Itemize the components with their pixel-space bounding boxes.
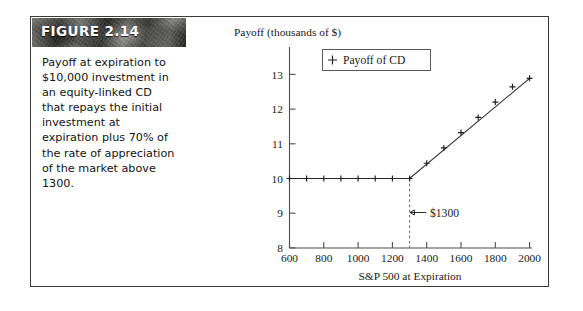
y-tick-label-13: 13 (272, 69, 284, 81)
figure-frame: FIGURE 2.14 Payoff at expiration to $10,… (30, 16, 549, 287)
figure-number-label: FIGURE 2.14 (41, 23, 139, 39)
y-tick-label-11: 11 (272, 138, 283, 150)
figure-caption-block: FIGURE 2.14 Payoff at expiration to $10,… (31, 17, 186, 286)
x-tick-label-1600: 1600 (450, 252, 473, 264)
annotation-1300: $1300 (410, 207, 459, 220)
payoff-chart-svg: Payoff (thousands of $) 13 12 11 10 9 8 (186, 17, 548, 286)
chart-legend[interactable]: Payoff of CD (323, 50, 431, 71)
x-tick-label-1800: 1800 (484, 252, 507, 264)
y-tick-label-12: 12 (272, 103, 284, 115)
y-axis-ticks (290, 74, 296, 248)
x-axis-title: S&P 500 at Expiration (358, 270, 461, 282)
figure-caption-text: Payoff at expiration to $10,000 investme… (42, 55, 176, 191)
x-tick-label-800: 800 (315, 252, 332, 264)
x-tick-label-2000: 2000 (518, 252, 541, 264)
annotation-1300-label: $1300 (430, 207, 459, 220)
x-tick-label-1400: 1400 (415, 252, 438, 264)
x-tick-label-1000: 1000 (347, 252, 370, 264)
chart-plot-area: Payoff (thousands of $) 13 12 11 10 9 8 (186, 17, 548, 286)
legend-item-label: Payoff of CD (343, 54, 405, 67)
series-line-payoff-of-cd (290, 78, 530, 178)
y-axis-title: Payoff (thousands of $) (234, 26, 341, 39)
y-tick-label-9: 9 (277, 207, 283, 219)
figure-banner: FIGURE 2.14 (32, 18, 186, 47)
series-markers (287, 75, 533, 181)
x-tick-label-600: 600 (281, 252, 298, 264)
x-tick-label-1200: 1200 (381, 252, 404, 264)
y-tick-label-10: 10 (272, 173, 284, 185)
